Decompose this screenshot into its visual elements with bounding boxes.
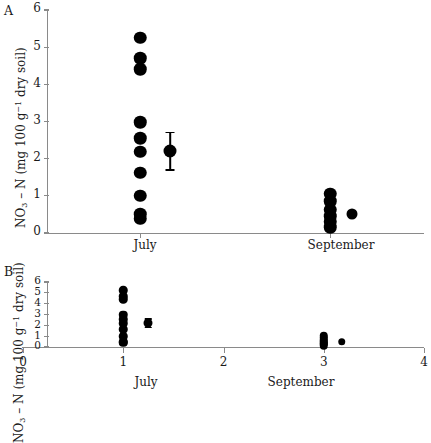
y-tick-mark <box>44 195 49 196</box>
x-tick-mark <box>424 348 425 353</box>
panel-b: B NO3 – N (mg 100 g−1 dry soil) July Sep… <box>0 262 431 443</box>
y-tick-label: 6 <box>19 1 41 15</box>
figure-nitrate-dotplots: A NO3 – N (mg 100 g−1 dry soil) July Sep… <box>0 0 431 443</box>
error-bar-cap-upper <box>166 132 175 134</box>
x-tick-mark <box>330 234 331 238</box>
panel-a: A NO3 – N (mg 100 g−1 dry soil) July Sep… <box>0 0 431 262</box>
y-tick-mark <box>44 281 49 282</box>
y-tick-label: 3 <box>19 113 41 127</box>
y-tick-label: 5 <box>19 285 41 297</box>
data-point-september-offset <box>338 338 346 346</box>
x-tick-mark <box>23 348 24 353</box>
x-tick-label: 1 <box>108 355 138 369</box>
data-point-september <box>320 341 329 350</box>
panel-b-category-september: September <box>255 375 347 389</box>
y-tick-label: 5 <box>19 39 41 53</box>
panel-a-category-july: July <box>105 238 185 252</box>
y-tick-label: 3 <box>19 307 41 319</box>
y-tick-label: 0 <box>19 224 41 238</box>
data-point-july <box>134 167 147 180</box>
y-tick-mark <box>44 346 49 347</box>
y-tick-mark <box>44 303 49 304</box>
data-point-september-offset <box>347 209 358 220</box>
y-tick-label: 4 <box>19 296 41 308</box>
y-tick-mark <box>44 325 49 326</box>
panel-a-label: A <box>4 3 13 18</box>
mean-marker-july <box>144 319 153 328</box>
y-tick-mark <box>44 121 49 122</box>
data-point-july <box>134 63 147 76</box>
data-point-september <box>324 221 337 234</box>
y-tick-label: 2 <box>19 150 41 164</box>
data-point-july <box>134 190 147 203</box>
x-tick-mark <box>140 234 141 238</box>
panel-a-x-axis <box>47 233 424 234</box>
y-tick-mark <box>44 336 49 337</box>
mean-marker-july <box>164 145 177 158</box>
data-point-july <box>134 32 147 45</box>
panel-a-category-september: September <box>295 238 387 252</box>
y-tick-mark <box>44 158 49 159</box>
x-tick-label: 2 <box>209 355 239 369</box>
x-tick-label: 4 <box>409 355 431 369</box>
y-tick-label: 1 <box>19 329 41 341</box>
y-tick-label: 6 <box>19 274 41 286</box>
data-point-july <box>134 116 147 129</box>
y-tick-mark <box>44 47 49 48</box>
error-bar-cap-lower <box>166 169 175 171</box>
y-tick-label: 2 <box>19 318 41 330</box>
x-tick-mark <box>123 348 124 353</box>
y-tick-mark <box>44 292 49 293</box>
y-tick-mark <box>44 9 49 10</box>
data-point-july <box>134 213 147 226</box>
y-tick-label: 1 <box>19 187 41 201</box>
x-tick-mark <box>224 348 225 353</box>
data-point-july <box>134 146 147 159</box>
y-tick-mark <box>44 232 49 233</box>
y-tick-mark <box>44 314 49 315</box>
data-point-july <box>134 132 147 145</box>
x-tick-label: 0 <box>8 355 38 369</box>
data-point-july <box>119 295 128 304</box>
panel-b-category-july: July <box>106 375 186 389</box>
x-tick-label: 3 <box>309 355 339 369</box>
data-point-july <box>119 339 128 348</box>
y-tick-mark <box>44 84 49 85</box>
y-tick-label: 4 <box>19 76 41 90</box>
